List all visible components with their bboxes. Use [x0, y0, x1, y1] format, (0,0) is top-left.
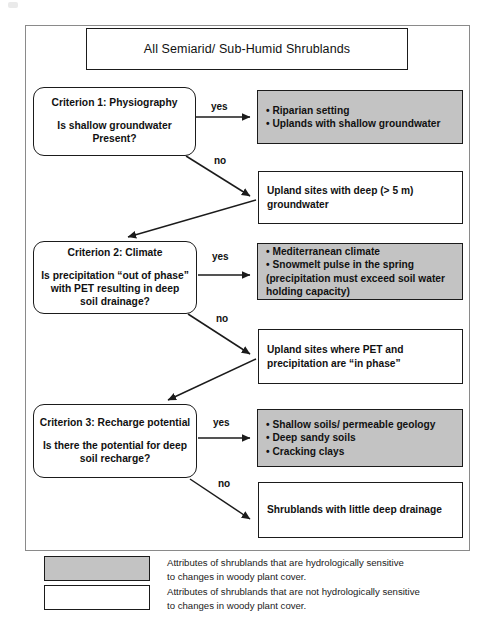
legend-swatch-shaded: [44, 556, 150, 581]
legend-unshaded-line-1: Attributes of shrublands that are not hy…: [167, 585, 482, 599]
legend-shaded-line-2: to changes in woody plant cover.: [167, 570, 477, 584]
legend-swatch-unshaded: [44, 585, 150, 610]
legend-text-shaded: Attributes of shrublands that are hydrol…: [167, 556, 477, 583]
legend-shaded-line-1: Attributes of shrublands that are hydrol…: [167, 556, 477, 570]
legend-text-unshaded: Attributes of shrublands that are not hy…: [167, 585, 482, 612]
legend: Attributes of shrublands that are hydrol…: [0, 0, 488, 629]
figure-canvas: All Semiarid/ Sub-Humid Shrublands Crite…: [0, 0, 488, 629]
legend-unshaded-line-2: to changes in woody plant cover.: [167, 599, 482, 613]
